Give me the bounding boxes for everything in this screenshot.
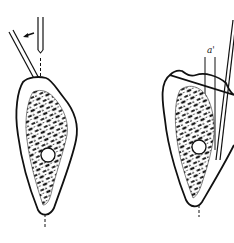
diagram-figure: a' (0, 0, 234, 243)
canal-circle-right (192, 140, 206, 154)
canal-circle-left (41, 148, 55, 162)
angled-instrument (9, 30, 42, 84)
arrow-left-icon (23, 33, 34, 38)
left-panel (9, 17, 77, 228)
vertical-guide (38, 17, 43, 76)
right-panel: a' (163, 20, 234, 217)
label-a-prime: a' (207, 45, 215, 55)
